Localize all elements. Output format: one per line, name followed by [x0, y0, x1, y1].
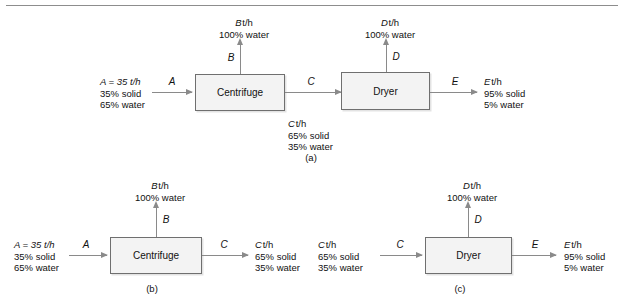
stream-label-d-fig-c: D — [474, 214, 481, 225]
unit-centrifuge-fig-a[interactable]: Centrifuge — [195, 74, 285, 111]
stream-label-d-fig-a: D — [392, 51, 399, 62]
stream-c-arrow-fig-a — [285, 92, 341, 93]
stream-b-arrow-fig-a — [240, 44, 241, 74]
stream-c-arrow-fig-b — [202, 255, 248, 256]
stream-d-line-1-letter-fig-c: D — [463, 180, 470, 191]
stream-c-line-3-fig-a: 35% water — [288, 141, 333, 153]
stream-label-e-fig-c: E — [532, 239, 539, 250]
feed-line-2: 35% solid — [100, 88, 141, 100]
stream-c-line-1-unit-fig-b: t/h — [262, 239, 273, 250]
stream-e-line-3-fig-a: 5% water — [484, 99, 524, 111]
stream-c-line-1-unit-fig-a: t/h — [295, 118, 306, 129]
unit-dryer-label-fig-c: Dryer — [456, 250, 480, 261]
feed-line-1: A = 35 t/h — [100, 76, 141, 88]
stream-d-arrow-fig-a — [386, 44, 387, 72]
stream-label-c-fig-a: C — [307, 76, 314, 87]
stream-e-line-2-fig-a: 95% solid — [484, 88, 525, 100]
stream-c-line-1-letter-fig-a: C — [288, 118, 295, 129]
stream-c-line-1-unit-fig-c: t/h — [325, 239, 336, 250]
feed-line-3-fig-b: 65% water — [14, 262, 59, 274]
stream-d-line-1-letter-fig-a: D — [381, 17, 388, 28]
stream-label-e-fig-a: E — [452, 76, 459, 87]
stream-c-line-3-fig-c: 35% water — [318, 262, 363, 274]
stream-b-arrow-fig-b — [156, 207, 157, 237]
stream-e-line-1-fig-c: E t/h — [564, 239, 582, 251]
unit-dryer-label-fig-a: Dryer — [373, 86, 397, 97]
stream-e-line-3-fig-c: 5% water — [564, 262, 604, 274]
stream-label-a-fig-b: A — [83, 239, 90, 250]
stream-label-c-fig-c: C — [396, 239, 403, 250]
stream-b-line-1-unit-fig-a: t/h — [241, 17, 252, 28]
stream-e-line-1-unit-fig-a: t/h — [490, 76, 501, 87]
stream-d-line-1-fig-c: D t/h — [463, 180, 481, 192]
stream-label-a-fig-a: A — [169, 76, 176, 87]
stream-label-b-fig-a: B — [228, 52, 235, 63]
stream-c-line-3-fig-b: 35% water — [255, 262, 300, 274]
stream-c-line-1-letter-fig-b: C — [255, 239, 262, 250]
stream-b-line-1-fig-a: B t/h — [235, 17, 253, 29]
caption-c: (c) — [454, 283, 465, 294]
feed-line-1-fig-b: A = 35 t/h — [14, 239, 55, 251]
feed-line-3: 65% water — [100, 99, 145, 111]
stream-label-b-fig-b: B — [163, 214, 170, 225]
unit-dryer-fig-c[interactable]: Dryer — [425, 237, 512, 274]
stream-c-line-2-fig-a: 65% solid — [288, 130, 329, 142]
stream-c-line-1-letter-fig-c: C — [318, 239, 325, 250]
stream-e-line-1-fig-a: E t/h — [484, 76, 502, 88]
stream-b-line-1-unit-fig-b: t/h — [157, 180, 168, 191]
header-rule — [6, 5, 618, 6]
stream-c-line-1-fig-c: C t/h — [318, 239, 336, 251]
stream-e-line-2-fig-c: 95% solid — [564, 251, 605, 263]
stream-label-c-fig-b: C — [220, 239, 227, 250]
unit-centrifuge-fig-b[interactable]: Centrifuge — [110, 237, 202, 274]
stream-d-line-1-unit-fig-a: t/h — [388, 17, 399, 28]
stream-c-line-1-fig-a: C t/h — [288, 118, 306, 130]
stream-e-arrow-fig-c — [512, 255, 556, 256]
stream-c-line-1-fig-b: C t/h — [255, 239, 273, 251]
feed-line-1-text: A = 35 t/h — [100, 76, 141, 87]
stream-b-line-1-fig-b: B t/h — [151, 180, 169, 192]
unit-centrifuge-label-fig-a: Centrifuge — [217, 87, 263, 98]
stream-e-line-1-unit-fig-c: t/h — [570, 239, 581, 250]
stream-a-arrow-fig-b — [69, 255, 107, 256]
stream-b-line-2-fig-b: 100% water — [135, 192, 185, 204]
stream-a-arrow-a — [152, 92, 192, 93]
stream-d-line-2-fig-a: 100% water — [365, 29, 415, 41]
stream-c-arrow-fig-c — [380, 255, 422, 256]
feed-line-2-fig-b: 35% solid — [14, 251, 55, 263]
stream-e-arrow-fig-a — [430, 92, 477, 93]
stream-c-line-2-fig-b: 65% solid — [255, 251, 296, 263]
stream-d-line-1-fig-a: D t/h — [381, 17, 399, 29]
stream-b-line-2-fig-a: 100% water — [219, 29, 269, 41]
stream-d-line-2-fig-c: 100% water — [447, 192, 497, 204]
unit-dryer-fig-a[interactable]: Dryer — [341, 72, 430, 110]
feed-line-1-text-fig-b: A = 35 t/h — [14, 239, 55, 250]
stream-c-line-2-fig-c: 65% solid — [318, 251, 359, 263]
stream-d-line-1-unit-fig-c: t/h — [470, 180, 481, 191]
stream-d-arrow-fig-c — [468, 207, 469, 237]
unit-centrifuge-label-fig-b: Centrifuge — [133, 250, 179, 261]
caption-b: (b) — [146, 283, 158, 294]
caption-a: (a) — [305, 152, 317, 163]
